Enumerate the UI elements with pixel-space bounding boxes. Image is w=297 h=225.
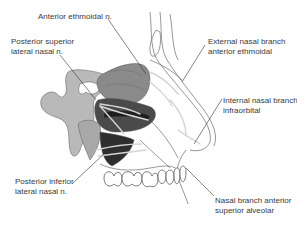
label-line: superior alveolar [215, 206, 291, 216]
label-line: anterior ethmoidal [208, 47, 285, 57]
label-line: Posterior inferior [15, 177, 74, 187]
label-anterior-ethmoidal-nerve: Anterior ethmoidal n. [38, 12, 112, 22]
label-line: lateral nasal n. [15, 187, 74, 197]
lateral-wall-mucosa [95, 64, 156, 166]
label-line: Anterior ethmoidal n. [38, 12, 112, 22]
label-line: External nasal branch [208, 37, 285, 47]
label-line: Posterior superior [11, 37, 74, 47]
label-line: Internal nasal branch [223, 96, 297, 106]
label-line: lateral nasal n. [11, 47, 74, 57]
label-posterior-inferior-lateral-nasal-nerve: Posterior inferior lateral nasal n. [15, 177, 74, 197]
label-external-nasal-branch: External nasal branch anterior ethmoidal [208, 37, 285, 57]
label-posterior-superior-lateral-nasal-nerve: Posterior superior lateral nasal n. [11, 37, 74, 57]
label-line: Nasal branch anterior [215, 196, 291, 206]
label-line: infraorbital [223, 106, 297, 116]
label-nasal-branch-anterior-superior-alveolar: Nasal branch anterior superior alveolar [215, 196, 291, 216]
label-internal-nasal-branch: Internal nasal branch infraorbital [223, 96, 297, 116]
